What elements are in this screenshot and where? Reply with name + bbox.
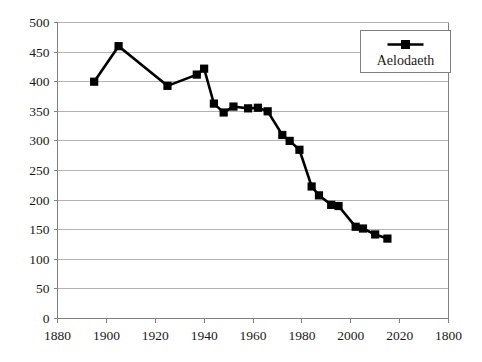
data-point-marker bbox=[254, 104, 262, 112]
legend-entry-label: Aelodaeth bbox=[377, 53, 435, 68]
y-axis-label-200: 200 bbox=[29, 193, 50, 208]
data-point-marker bbox=[352, 223, 360, 231]
x-axis-label-1800-8: 1800 bbox=[435, 328, 462, 343]
data-point-marker bbox=[295, 146, 303, 154]
data-point-marker bbox=[114, 42, 122, 50]
data-point-marker bbox=[371, 230, 379, 238]
data-point-marker bbox=[315, 191, 323, 199]
x-axis-label-1880-0: 1880 bbox=[44, 328, 71, 343]
x-axis-tick-labels: 188019001920194019601980200020201800 bbox=[44, 328, 462, 343]
x-axis-label-2020-7: 2020 bbox=[386, 328, 413, 343]
data-point-marker bbox=[359, 224, 367, 232]
y-axis-label-500: 500 bbox=[29, 15, 50, 30]
y-axis-label-0: 0 bbox=[43, 311, 50, 326]
data-point-marker bbox=[308, 182, 316, 190]
data-point-marker bbox=[264, 107, 272, 115]
y-axis-label-100: 100 bbox=[29, 252, 50, 267]
data-point-marker bbox=[244, 104, 252, 112]
x-axis-label-2000-6: 2000 bbox=[337, 328, 364, 343]
data-point-marker bbox=[220, 108, 228, 116]
x-axis-label-1900-1: 1900 bbox=[93, 328, 120, 343]
data-point-marker bbox=[163, 82, 171, 90]
data-point-marker bbox=[383, 234, 391, 242]
chart-legend[interactable]: Aelodaeth bbox=[361, 31, 451, 73]
x-axis-label-1940-3: 1940 bbox=[191, 328, 218, 343]
x-axis-label-1920-2: 1920 bbox=[142, 328, 169, 343]
data-point-marker bbox=[286, 137, 294, 145]
line-chart: 188019001920194019601980200020201800 050… bbox=[0, 0, 482, 362]
x-axis-label-1960-4: 1960 bbox=[240, 328, 267, 343]
y-axis-label-150: 150 bbox=[29, 222, 50, 237]
y-axis-label-350: 350 bbox=[29, 104, 50, 119]
data-point-marker bbox=[193, 71, 201, 79]
y-axis-label-50: 50 bbox=[36, 281, 50, 296]
data-point-marker bbox=[90, 78, 98, 86]
y-axis-label-300: 300 bbox=[29, 133, 50, 148]
data-point-marker bbox=[278, 131, 286, 139]
y-axis-label-400: 400 bbox=[29, 74, 50, 89]
data-point-marker bbox=[334, 202, 342, 210]
data-point-marker bbox=[229, 102, 237, 110]
legend-sample-marker-icon bbox=[401, 40, 410, 49]
y-axis-label-250: 250 bbox=[29, 163, 50, 178]
data-point-marker bbox=[327, 201, 335, 209]
x-axis-label-1980-5: 1980 bbox=[288, 328, 315, 343]
data-point-marker bbox=[210, 100, 218, 108]
data-point-marker bbox=[200, 65, 208, 73]
y-axis-label-450: 450 bbox=[29, 45, 50, 60]
chart-container: 188019001920194019601980200020201800 050… bbox=[0, 0, 482, 362]
